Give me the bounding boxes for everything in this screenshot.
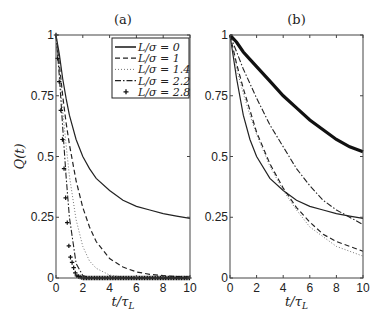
series-line <box>230 35 363 152</box>
x-tick-label: 6 <box>133 281 140 295</box>
y-tick-label: 1 <box>221 28 228 42</box>
y-tick-label: 0 <box>47 271 54 285</box>
y-tick-label: 0.5 <box>37 150 54 164</box>
y-tick-label: 0.5 <box>211 150 228 164</box>
series-line <box>230 35 363 256</box>
y-tick-label: 0 <box>221 271 228 285</box>
figure: (a)024681000.250.50.751t/τLQ(t)L/σ = 0L/… <box>0 0 380 322</box>
x-tick-label: 4 <box>106 281 113 295</box>
x-axis-label: t/τL <box>285 294 308 311</box>
legend: L/σ = 0L/σ = 1L/σ = 1.4L/σ = 2.2L/σ = 2.… <box>112 38 190 99</box>
x-axis-label: t/τL <box>112 294 135 311</box>
y-tick-label: 1 <box>47 28 54 42</box>
x-tick-label: 6 <box>306 281 313 295</box>
panel-title: (a) <box>114 12 132 27</box>
x-tick-label: 2 <box>79 281 86 295</box>
panel-a: (a)024681000.250.50.751t/τLQ(t)L/σ = 0L/… <box>12 12 197 311</box>
x-tick-label: 10 <box>183 281 197 295</box>
y-tick-label: 0.25 <box>31 210 55 224</box>
panel-title: (b) <box>287 12 305 27</box>
y-tick-label: 0.75 <box>205 89 229 103</box>
x-tick-label: 2 <box>253 281 260 295</box>
y-tick-label: 0.25 <box>205 210 229 224</box>
panel-b: (b)024681000.250.50.751t/τL <box>205 12 370 311</box>
legend-entry: L/σ = 2.8 <box>137 86 190 99</box>
x-tick-label: 4 <box>280 281 287 295</box>
y-tick-label: 0.75 <box>31 89 55 103</box>
x-tick-label: 8 <box>160 281 167 295</box>
x-tick-label: 8 <box>333 281 340 295</box>
series-line <box>230 35 363 218</box>
axes-frame <box>230 35 363 278</box>
series-line <box>230 35 363 225</box>
y-axis-label: Q(t) <box>12 143 27 169</box>
x-tick-label: 10 <box>356 281 370 295</box>
